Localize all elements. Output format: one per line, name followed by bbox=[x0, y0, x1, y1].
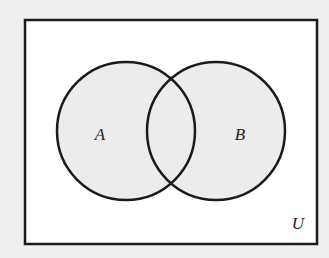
venn-svg: A B U bbox=[0, 0, 329, 258]
universe-label: U bbox=[292, 214, 306, 233]
set-a-label: A bbox=[94, 125, 106, 144]
set-b-label: B bbox=[235, 125, 246, 144]
venn-diagram: A B U bbox=[0, 0, 329, 258]
